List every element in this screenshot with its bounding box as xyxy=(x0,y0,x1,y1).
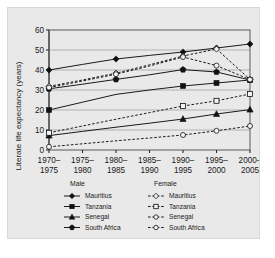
data-marker xyxy=(154,225,158,229)
x-tick-label: 2000– xyxy=(239,156,259,165)
legend-item-label: Tanzania xyxy=(85,203,112,210)
x-tick-label: 1990 xyxy=(140,166,159,175)
data-marker xyxy=(248,92,253,97)
legend-item-label: Senegal xyxy=(85,213,110,221)
x-tick-label: 1970– xyxy=(38,156,61,165)
data-marker xyxy=(214,63,219,68)
y-tick-label: 60 xyxy=(35,26,45,35)
data-marker xyxy=(47,108,52,113)
data-marker xyxy=(154,204,158,208)
y-tick-label: 0 xyxy=(39,146,44,155)
legend-item-label: Mauritius xyxy=(85,192,112,199)
y-tick-label: 10 xyxy=(35,126,45,135)
x-tick-label: 2000 xyxy=(207,166,226,175)
data-marker xyxy=(181,55,186,60)
x-tick-label: 1980– xyxy=(105,156,128,165)
legend-item-label: Mauritius xyxy=(169,192,196,199)
x-tick-label: 1975 xyxy=(40,166,59,175)
data-marker xyxy=(214,81,219,86)
legend-heading: Female xyxy=(154,180,177,187)
x-tick-label: 2005 xyxy=(241,166,259,175)
chart-figure: Literate life expectancy (years) 0102030… xyxy=(8,8,259,238)
y-tick-label: 50 xyxy=(35,46,45,55)
data-marker xyxy=(154,215,158,219)
data-marker xyxy=(181,84,186,89)
x-tick-label: 1985– xyxy=(138,156,161,165)
data-marker xyxy=(47,130,52,135)
legend-item-label: Senegal xyxy=(169,213,194,221)
data-marker xyxy=(181,104,186,109)
legend-item-label: South Africa xyxy=(85,224,121,231)
data-marker xyxy=(114,72,119,77)
data-marker xyxy=(181,133,186,138)
data-marker xyxy=(248,77,253,82)
data-marker xyxy=(47,144,52,149)
data-marker xyxy=(70,204,74,208)
y-tick-label: 40 xyxy=(35,66,45,75)
data-marker xyxy=(214,128,219,133)
x-tick-label: 1995– xyxy=(205,156,228,165)
legend-item-label: South Africa xyxy=(169,224,205,231)
data-marker xyxy=(214,98,219,103)
legend-heading: Male xyxy=(70,180,85,187)
x-tick-label: 1980 xyxy=(73,166,92,175)
data-marker xyxy=(248,124,253,129)
x-tick-label: 1995 xyxy=(174,166,193,175)
y-tick-label: 20 xyxy=(35,106,45,115)
y-tick-label: 30 xyxy=(35,86,45,95)
data-marker xyxy=(47,85,52,90)
x-tick-label: 1990– xyxy=(172,156,195,165)
figure-background xyxy=(8,8,259,238)
x-tick-label: 1985 xyxy=(107,166,126,175)
line-chart: Literate life expectancy (years) 0102030… xyxy=(8,8,259,238)
x-tick-label: 1975– xyxy=(71,156,94,165)
y-axis-title: Literate life expectancy (years) xyxy=(14,61,23,170)
legend-item-label: Tanzania xyxy=(169,203,196,210)
